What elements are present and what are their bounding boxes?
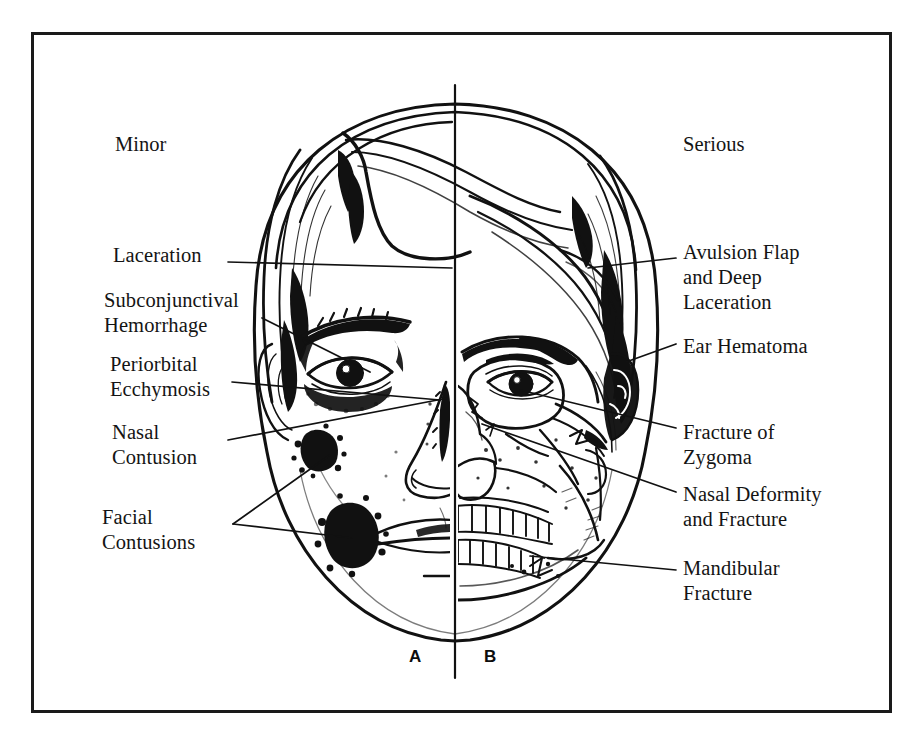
label-nasal-deformity: Nasal Deformity and Fracture xyxy=(683,482,822,532)
label-fracture-of-zygoma: Fracture of Zygoma xyxy=(683,420,775,470)
header-serious: Serious xyxy=(683,133,745,156)
panel-key-b: B xyxy=(484,647,496,667)
label-subconjunctival-hemorrhage: Subconjunctival Hemorrhage xyxy=(104,288,239,338)
label-avulsion-flap: Avulsion Flap and Deep Laceration xyxy=(683,240,800,315)
label-ear-hematoma: Ear Hematoma xyxy=(683,334,808,359)
label-mandibular-fracture: Mandibular Fracture xyxy=(683,556,780,606)
panel-key-a: A xyxy=(409,647,421,667)
label-facial-contusions: Facial Contusions xyxy=(102,505,195,555)
label-laceration: Laceration xyxy=(113,243,202,268)
label-nasal-contusion: Nasal Contusion xyxy=(112,420,197,470)
label-periorbital-ecchymosis: Periorbital Ecchymosis xyxy=(110,352,210,402)
header-minor: Minor xyxy=(115,133,166,156)
